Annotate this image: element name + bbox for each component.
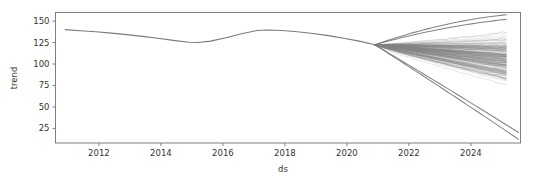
y-tick-label: 75 <box>39 80 50 90</box>
x-tick-label: 2020 <box>336 148 358 158</box>
y-tick-label: 50 <box>39 102 50 112</box>
y-axis-label: trend <box>9 67 19 90</box>
x-axis-label: ds <box>278 164 288 174</box>
y-tick-label: 25 <box>39 123 50 133</box>
x-tick-label: 2014 <box>150 148 172 158</box>
x-tick-label: 2012 <box>88 148 110 158</box>
y-tick-label: 150 <box>33 16 49 26</box>
x-tick-label: 2022 <box>398 148 420 158</box>
chart-canvas: 2012201420162018202020222024 25507510012… <box>0 0 538 184</box>
x-tick-label: 2018 <box>274 148 296 158</box>
figure-background <box>0 0 538 184</box>
trend-forecast-figure: 2012201420162018202020222024 25507510012… <box>0 0 538 184</box>
x-tick-label: 2024 <box>460 148 482 158</box>
y-tick-label: 100 <box>33 59 49 69</box>
x-tick-label: 2016 <box>212 148 234 158</box>
y-tick-label: 125 <box>33 38 49 48</box>
